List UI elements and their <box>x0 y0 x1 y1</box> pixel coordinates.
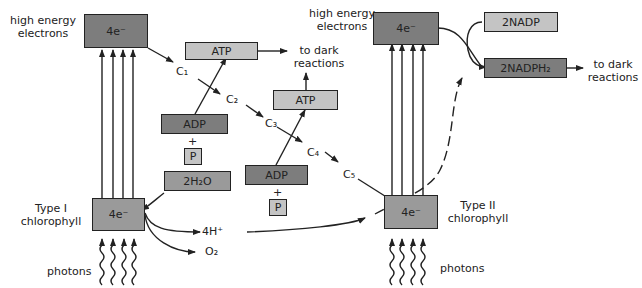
oxygen-label: O₂ <box>205 245 218 258</box>
label-line: chlorophyll <box>443 212 513 225</box>
label-line: to dark <box>289 44 349 57</box>
carrier-c4: C₄ <box>307 146 319 159</box>
left-high-energy-label: high energy electrons <box>2 14 84 40</box>
right-electrons-box: 4e⁻ <box>373 12 439 45</box>
plus-1: + <box>188 135 197 148</box>
right-photons-label: photons <box>440 262 484 275</box>
to-dark-reactions-label-1: to dark reactions <box>289 44 349 70</box>
label-line: to dark <box>585 58 641 71</box>
atp-box-2: ATP <box>273 90 338 110</box>
to-dark-reactions-label-3: to dark reactions <box>585 58 641 84</box>
label-line: high energy <box>2 14 84 27</box>
phosphate-box-1: P <box>184 148 202 165</box>
type1-chlorophyll-label: Type I chlorophyll <box>12 202 90 228</box>
label-line: chlorophyll <box>12 215 90 228</box>
right-high-energy-label: high energy electrons <box>302 7 382 33</box>
carrier-c3: C₃ <box>265 117 277 130</box>
atp-box-1: ATP <box>185 42 258 60</box>
adp-box-1: ADP <box>161 114 228 134</box>
photosynthesis-diagram: high energy electrons 4e⁻ ATP to dark re… <box>0 0 642 288</box>
label-line: electrons <box>302 20 382 33</box>
type2-chlorophyll-box: 4e⁻ <box>384 195 438 229</box>
label-line: Type II <box>443 199 513 212</box>
left-photons-label: photons <box>47 265 91 278</box>
phosphate-box-2: P <box>269 199 287 216</box>
label-line: reactions <box>585 71 641 84</box>
label-line: high energy <box>302 7 382 20</box>
proton-label: 4H⁺ <box>202 225 223 238</box>
carrier-c5: C₅ <box>343 168 355 181</box>
carrier-c1: C₁ <box>176 65 188 78</box>
label-line: Type I <box>12 202 90 215</box>
water-box: 2H₂O <box>164 171 231 191</box>
left-electrons-box: 4e⁻ <box>84 14 148 48</box>
type1-chlorophyll-box: 4e⁻ <box>92 198 145 231</box>
label-line: reactions <box>289 57 349 70</box>
carrier-c2: C₂ <box>226 93 238 106</box>
nadph-box: 2NADPH₂ <box>484 58 567 78</box>
nadp-box: 2NADP <box>484 12 558 32</box>
adp-box-2: ADP <box>245 165 308 185</box>
label-line: electrons <box>2 27 84 40</box>
plus-2: + <box>273 186 282 199</box>
type2-chlorophyll-label: Type II chlorophyll <box>443 199 513 225</box>
